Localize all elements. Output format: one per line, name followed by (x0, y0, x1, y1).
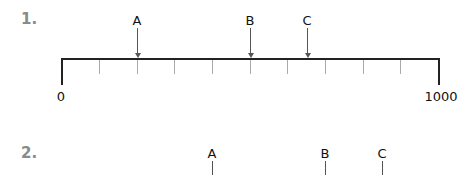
axis-max-label: 1000 (424, 90, 457, 103)
tick-700 (325, 60, 326, 74)
marker-b-arrow (325, 161, 326, 175)
marker-b-label: B (321, 147, 330, 160)
marker-a-label: A (133, 14, 142, 27)
marker-c-arrow (307, 28, 308, 54)
axis-right-end (438, 58, 440, 85)
tick-900 (400, 60, 401, 74)
axis-left-end (61, 58, 63, 85)
problem-2-number: 2. (21, 144, 37, 162)
tick-500 (250, 60, 251, 74)
marker-c-label: C (302, 14, 311, 27)
arrow-down-icon (248, 53, 254, 58)
marker-a-arrow (137, 28, 138, 54)
tick-300 (174, 60, 175, 74)
tick-600 (287, 60, 288, 74)
axis-min-label: 0 (57, 90, 65, 103)
marker-b-arrow (250, 28, 251, 54)
tick-200 (137, 60, 138, 74)
marker-a-arrow (212, 161, 213, 175)
marker-b-label: B (246, 14, 255, 27)
tick-400 (212, 60, 213, 74)
marker-c-arrow (382, 161, 383, 175)
marker-c-label: C (377, 147, 386, 160)
marker-a-label: A (208, 147, 217, 160)
arrow-down-icon (135, 53, 141, 58)
problem-1-number: 1. (21, 10, 37, 28)
tick-800 (363, 60, 364, 74)
arrow-down-icon (305, 53, 311, 58)
tick-100 (99, 60, 100, 74)
